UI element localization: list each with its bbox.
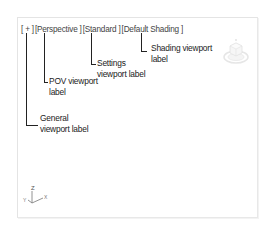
axis-z-label: Z xyxy=(31,185,35,191)
general-callout-text: General viewport label xyxy=(40,113,88,135)
pov-callout-line-v xyxy=(44,33,45,82)
viewcube-compass-icon[interactable] xyxy=(221,37,251,67)
general-callout-line2: viewport label xyxy=(40,124,88,135)
shading-callout-line2: label xyxy=(151,54,212,65)
viewport-label-bar: [ + ][Perspective ][Standard ][Default S… xyxy=(21,25,184,34)
pov-callout-line1: POV viewport xyxy=(49,76,98,87)
pov-callout-line2: label xyxy=(49,87,98,98)
axis-y-label: Y xyxy=(23,197,27,203)
general-callout-line-v xyxy=(26,33,27,126)
general-callout-line1: General xyxy=(40,113,88,124)
settings-callout-line1: Settings xyxy=(97,58,145,69)
settings-callout-line2: viewport label xyxy=(97,69,145,80)
settings-callout-line-h xyxy=(91,64,96,65)
shading-callout-text: Shading viewport label xyxy=(151,43,212,65)
shading-callout-line1: Shading viewport xyxy=(151,43,212,54)
pov-viewport-label[interactable]: [Perspective ] xyxy=(35,25,82,34)
shading-callout-line-h xyxy=(141,51,147,52)
settings-callout-line-v xyxy=(91,33,92,64)
settings-viewport-label[interactable]: [Standard ] xyxy=(83,25,121,34)
general-callout-line-h xyxy=(26,125,38,126)
pov-callout-line-h xyxy=(44,82,48,83)
pov-callout-text: POV viewport label xyxy=(49,76,98,98)
settings-callout-text: Settings viewport label xyxy=(97,58,145,80)
shading-viewport-label[interactable]: [Default Shading ] xyxy=(122,25,184,34)
axis-x-label: X xyxy=(44,194,48,200)
axis-tripod-icon: Z Y X xyxy=(19,180,51,208)
shading-callout-line-v xyxy=(141,33,142,51)
general-viewport-label[interactable]: [ + ] xyxy=(21,25,34,34)
